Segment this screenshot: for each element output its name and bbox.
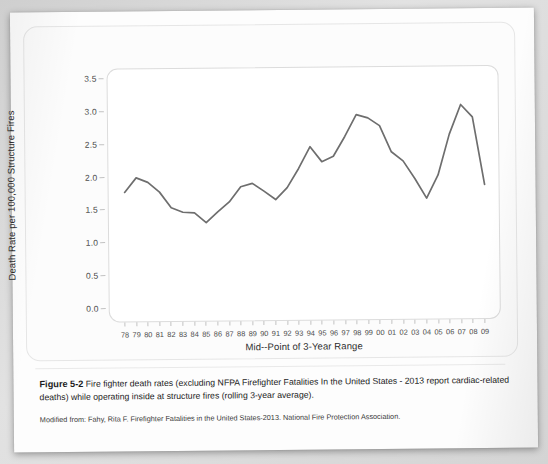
- x-tick-label: 85: [202, 330, 210, 339]
- figure-caption: Figure 5-2 Fire fighter death rates (exc…: [39, 374, 517, 404]
- x-tick-mark: [450, 319, 451, 323]
- x-tick-mark: [415, 320, 416, 324]
- x-tick-mark: [148, 322, 149, 326]
- y-tick-mark: [99, 144, 104, 145]
- x-tick-mark: [194, 322, 195, 326]
- x-tick-mark: [322, 321, 323, 325]
- x-tick-label: 87: [225, 329, 233, 338]
- x-tick-label: 94: [307, 329, 315, 338]
- x-tick-label: 82: [167, 330, 175, 339]
- x-tick-mark: [299, 321, 300, 325]
- x-tick-mark: [287, 321, 288, 325]
- x-axis-title: Mid--Point of 3-Year Range: [109, 339, 499, 354]
- x-tick-mark: [391, 320, 392, 324]
- y-axis-title: Death Rate per 100,000 Structure Fires: [2, 69, 20, 321]
- x-tick-mark: [264, 321, 265, 325]
- x-tick-mark: [380, 320, 381, 324]
- x-tick-mark: [357, 320, 358, 324]
- y-tick-mark: [99, 78, 104, 79]
- x-tick-label: 98: [353, 328, 361, 337]
- x-tick-mark: [345, 320, 346, 324]
- x-tick-label: 83: [179, 330, 187, 339]
- y-tick-mark: [99, 177, 104, 178]
- y-tick-mark: [101, 308, 106, 309]
- x-tick-label: 06: [446, 327, 454, 336]
- x-tick-mark: [403, 320, 404, 324]
- x-tick-mark: [310, 321, 311, 325]
- plot-panel: [106, 65, 500, 323]
- x-tick-mark: [124, 322, 125, 326]
- figure-number: Figure 5-2: [39, 379, 83, 389]
- x-tick-label: 97: [341, 328, 349, 337]
- y-tick-mark: [100, 210, 105, 211]
- y-tick-label: 2.0: [85, 172, 98, 182]
- x-tick-label: 80: [144, 330, 152, 339]
- x-tick-mark: [275, 321, 276, 325]
- x-tick-label: 84: [191, 330, 199, 339]
- x-tick-mark: [461, 319, 462, 323]
- x-tick-label: 05: [434, 327, 442, 336]
- screenshot-stage: 0.00.51.01.52.02.53.03.5 Death Rate per …: [0, 0, 548, 464]
- y-tick-label: 0.5: [86, 271, 99, 281]
- death-rate-series-line: [124, 104, 485, 223]
- y-tick-label: 1.0: [86, 238, 99, 248]
- x-tick-mark: [438, 319, 439, 323]
- figure-caption-text: Fire fighter death rates (excluding NFPA…: [40, 375, 510, 402]
- x-tick-mark: [182, 322, 183, 326]
- x-tick-mark: [206, 322, 207, 326]
- x-axis: 7879808182838485868788899091929394959697…: [109, 319, 499, 341]
- x-tick-mark: [473, 319, 474, 323]
- x-tick-label: 02: [400, 328, 408, 337]
- x-tick-label: 91: [272, 329, 280, 338]
- x-tick-mark: [217, 322, 218, 326]
- x-tick-label: 96: [330, 328, 338, 337]
- figure-frame: 0.00.51.01.52.02.53.03.5 Death Rate per …: [23, 22, 518, 362]
- x-tick-mark: [229, 321, 230, 325]
- y-tick-label: 3.0: [84, 107, 97, 117]
- x-tick-mark: [171, 322, 172, 326]
- y-tick-label: 0.0: [86, 304, 99, 314]
- figure-source: Modified from: Fahy, Rita F. Firefighter…: [40, 411, 518, 426]
- y-tick-label: 3.5: [84, 74, 97, 84]
- x-tick-mark: [252, 321, 253, 325]
- x-tick-label: 89: [249, 329, 257, 338]
- y-tick-mark: [100, 242, 105, 243]
- y-tick-mark: [100, 275, 105, 276]
- y-axis: 0.00.51.01.52.02.53.03.5: [60, 69, 106, 321]
- x-tick-mark: [484, 319, 485, 323]
- x-tick-label: 88: [237, 329, 245, 338]
- x-tick-mark: [333, 320, 334, 324]
- x-tick-mark: [426, 320, 427, 324]
- y-tick-label: 2.5: [85, 139, 98, 149]
- x-tick-label: 04: [423, 327, 431, 336]
- x-tick-label: 79: [132, 330, 140, 339]
- x-tick-mark: [159, 322, 160, 326]
- x-tick-mark: [241, 321, 242, 325]
- caption-divider: [35, 364, 505, 370]
- x-tick-label: 90: [260, 329, 268, 338]
- x-tick-label: 00: [376, 328, 384, 337]
- x-tick-label: 81: [156, 330, 164, 339]
- x-tick-label: 01: [388, 328, 396, 337]
- x-tick-label: 09: [481, 327, 489, 336]
- x-tick-label: 99: [365, 328, 373, 337]
- y-tick-mark: [99, 111, 104, 112]
- x-tick-mark: [368, 320, 369, 324]
- death-rate-line-chart: [107, 66, 499, 322]
- x-tick-mark: [136, 322, 137, 326]
- x-tick-label: 93: [295, 329, 303, 338]
- scanned-page: 0.00.51.01.52.02.53.03.5 Death Rate per …: [10, 7, 538, 452]
- x-tick-label: 07: [458, 327, 466, 336]
- x-tick-label: 86: [214, 330, 222, 339]
- x-tick-label: 95: [318, 329, 326, 338]
- y-tick-label: 1.5: [85, 205, 98, 215]
- x-tick-label: 03: [411, 328, 419, 337]
- x-tick-label: 78: [121, 330, 129, 339]
- x-tick-label: 92: [283, 329, 291, 338]
- x-tick-label: 08: [469, 327, 477, 336]
